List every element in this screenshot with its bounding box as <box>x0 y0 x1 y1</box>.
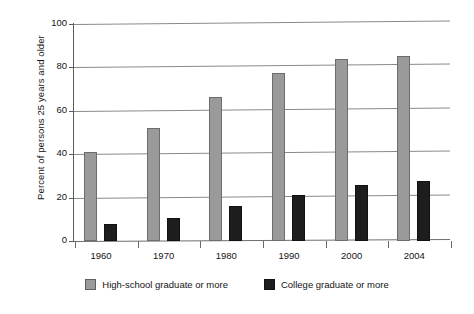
x-axis-tick <box>75 241 76 248</box>
x-axis-tick-label: 2004 <box>392 250 436 261</box>
chart-legend: High-school graduate or moreCollege grad… <box>0 279 474 290</box>
y-axis-tick-label: 0 <box>62 234 67 245</box>
bar-high-school <box>147 128 160 241</box>
bar-college <box>292 195 305 241</box>
gridline <box>74 194 450 199</box>
legend-entry: High-school graduate or more <box>85 279 228 290</box>
x-axis-tick-label: 1990 <box>267 250 311 261</box>
y-axis-tick-label: 60 <box>56 104 67 115</box>
gridline <box>74 107 450 112</box>
bar-high-school <box>272 73 285 241</box>
black-swatch <box>264 279 275 290</box>
x-axis-tick-label: 1960 <box>79 250 123 261</box>
x-axis-tick-label: 1970 <box>142 250 186 261</box>
plot-area: 020406080100 196019701980199020002004 <box>74 24 450 241</box>
legend-label: College graduate or more <box>281 279 389 290</box>
bar-college <box>167 218 180 241</box>
x-axis-tick <box>388 241 389 248</box>
x-axis-tick <box>451 241 452 248</box>
y-axis-tick-label: 100 <box>51 17 67 28</box>
y-axis-tick <box>69 111 74 112</box>
bar-high-school <box>397 56 410 241</box>
y-axis-tick <box>69 241 74 242</box>
y-axis-tick <box>69 67 74 68</box>
y-axis-tick-label: 80 <box>56 60 67 71</box>
y-axis-line <box>73 23 74 242</box>
bar-high-school <box>84 152 97 241</box>
bar-chart-figure: Percent of persons 25 years and older 02… <box>0 0 474 314</box>
gridline <box>74 64 450 69</box>
gridline <box>74 239 450 242</box>
x-axis-tick <box>326 241 327 248</box>
x-axis-tick-label: 1980 <box>204 250 248 261</box>
legend-entry: College graduate or more <box>264 279 389 290</box>
y-axis-tick <box>69 154 74 155</box>
y-axis-title: Percent of persons 25 years and older <box>35 3 46 233</box>
y-axis-tick <box>69 198 74 199</box>
bar-college <box>104 224 117 241</box>
y-axis-tick-label: 40 <box>56 147 67 158</box>
bar-high-school <box>335 59 348 241</box>
x-axis-tick <box>200 241 201 248</box>
x-axis-tick <box>138 241 139 248</box>
legend-label: High-school graduate or more <box>102 279 228 290</box>
x-axis-tick-label: 2000 <box>330 250 374 261</box>
bar-college <box>355 185 368 241</box>
gridline <box>74 20 450 25</box>
x-axis-tick <box>263 241 264 248</box>
gridline <box>74 151 450 156</box>
gray-swatch <box>85 279 96 290</box>
bar-high-school <box>209 97 222 241</box>
y-axis-tick-label: 20 <box>56 191 67 202</box>
bar-college <box>229 206 242 241</box>
bar-college <box>417 181 430 241</box>
y-axis-tick <box>69 24 74 25</box>
